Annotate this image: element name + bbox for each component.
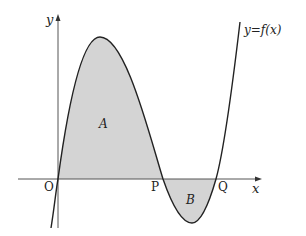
point-p-label: P [151, 180, 159, 194]
region-a-label: A [98, 117, 108, 131]
y-axis-label: y [45, 12, 54, 27]
origin-label: O [44, 180, 54, 194]
region-a-shade [58, 37, 163, 179]
point-q-label: Q [218, 180, 228, 194]
region-b-label: B [185, 193, 195, 207]
curve-label: y=f(x) [243, 23, 282, 37]
x-axis-label: x [252, 181, 260, 196]
y-axis-arrow-icon [56, 14, 61, 21]
function-graph: y x O P Q A B y=f(x) [0, 0, 306, 236]
